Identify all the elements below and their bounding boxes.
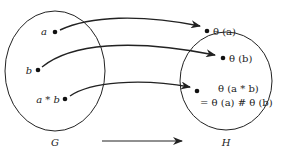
theta-a-label: θ (a) (213, 26, 236, 37)
element-ab-label: a * b (36, 94, 60, 105)
theta-ab-dot (195, 89, 200, 94)
map-arrow-b (42, 45, 215, 67)
element-b-dot (36, 68, 41, 73)
theta-ab-equation: = θ (a) # θ (b) (200, 97, 273, 108)
theta-ab-label: θ (a * b) (218, 83, 259, 94)
set-h-label: H (221, 137, 231, 148)
element-a-dot (53, 30, 58, 35)
map-arrow-ab (70, 82, 190, 96)
homomorphism-diagram: a b a * b θ (a) θ (b) θ (a * b) = θ (a) … (0, 0, 281, 156)
element-a-label: a (41, 26, 47, 37)
set-h-ellipse (180, 32, 272, 130)
theta-a-dot (205, 29, 210, 34)
set-g-label: G (51, 137, 59, 148)
theta-b-dot (221, 56, 226, 61)
element-b-label: b (26, 65, 32, 76)
set-g-ellipse (5, 11, 105, 131)
theta-b-label: θ (b) (229, 53, 253, 64)
element-ab-dot (63, 97, 68, 102)
